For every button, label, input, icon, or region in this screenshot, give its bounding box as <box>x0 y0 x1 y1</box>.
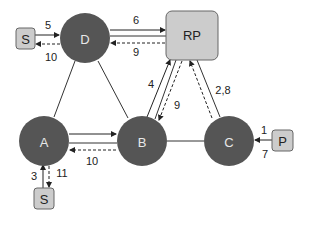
router-b-label: B <box>138 135 147 150</box>
label-b-to-a: 10 <box>86 155 98 167</box>
router-c: C <box>204 116 254 166</box>
pim-topology-diagram: D A B C RP S S P 5 10 6 9 4 9 2,8 10 3 <box>0 0 309 225</box>
link-d-b <box>98 61 128 118</box>
dashed-arrows <box>36 43 212 187</box>
router-c-label: C <box>224 135 233 150</box>
source-top-label: S <box>21 32 30 47</box>
label-p-to-c-top: 1 <box>261 124 267 136</box>
label-s-to-a: 3 <box>31 170 37 182</box>
source-bottom: S <box>34 188 54 209</box>
label-p-to-c-bottom: 7 <box>262 148 268 160</box>
label-rp-to-d: 9 <box>133 46 139 58</box>
router-d: D <box>60 13 110 63</box>
label-a-to-s: 11 <box>56 167 67 179</box>
source-p: P <box>272 130 293 151</box>
link-d-a <box>54 61 75 117</box>
label-d-to-s: 10 <box>45 51 57 63</box>
rendezvous-point: RP <box>166 11 218 60</box>
rp-label: RP <box>183 28 201 43</box>
router-b: B <box>117 116 167 166</box>
label-s-to-d: 5 <box>45 19 51 31</box>
source-p-label: P <box>278 134 287 149</box>
source-bottom-label: S <box>40 192 49 207</box>
label-b-to-rp: 4 <box>148 78 154 90</box>
label-c-to-rp: 2,8 <box>215 84 230 96</box>
source-top: S <box>16 28 35 49</box>
label-d-to-rp: 6 <box>133 14 139 26</box>
router-d-label: D <box>80 32 89 47</box>
arrow-rp-to-b <box>159 61 182 120</box>
label-rp-to-b: 9 <box>174 99 180 111</box>
router-a-label: A <box>40 135 49 150</box>
router-a: A <box>19 116 69 166</box>
